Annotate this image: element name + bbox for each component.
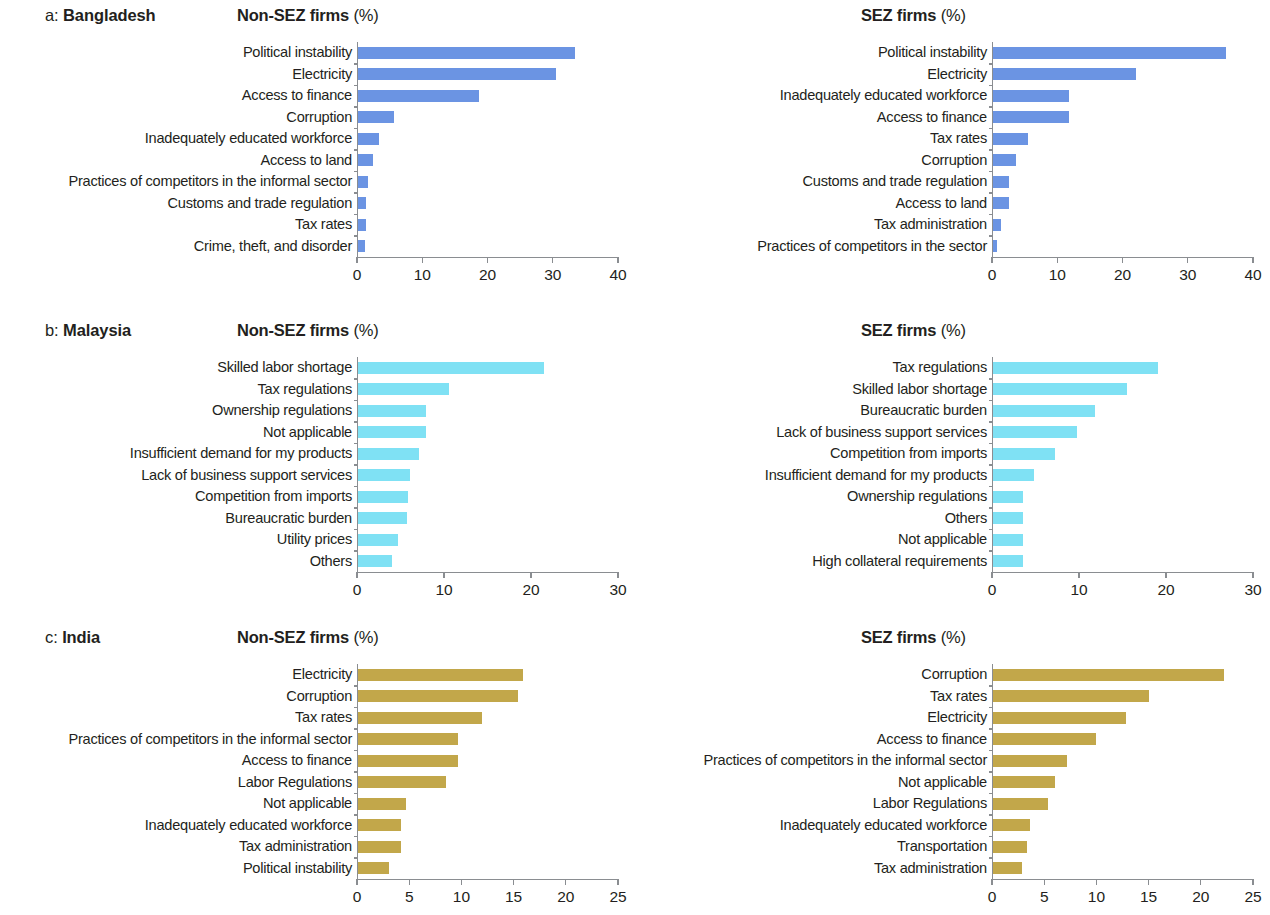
category-label: High collateral requirements [635,551,992,573]
bar [358,512,407,524]
x-axis-tick-label: 30 [1244,581,1261,599]
bar-column [992,664,1254,879]
bar [358,776,446,788]
category-label: Tax rates [0,707,357,729]
bar [993,176,1009,188]
x-axis: 010203040 [992,257,1253,287]
panel-title-text: Non-SEZ firms [237,321,349,339]
category-label: Practices of competitors in the informal… [0,171,357,193]
category-label: Corruption [635,150,992,172]
plot-area: Political instabilityElectricityInadequa… [635,42,1270,257]
category-label: Access to land [635,193,992,215]
x-axis-tick [617,572,618,578]
bar-row [358,664,619,686]
category-label-column: Tax regulationsSkilled labor shortageBur… [635,357,992,572]
x-axis-tick-label: 20 [479,266,496,284]
bar [993,90,1069,102]
bar-row [358,729,619,751]
bar-row [358,107,619,129]
category-label: Inadequately educated workforce [0,815,357,837]
bar [358,819,401,831]
bar-row [993,793,1254,815]
category-label: Crime, theft, and disorder [0,236,357,258]
category-label: Not applicable [0,422,357,444]
bar-row [993,150,1254,172]
x-axis-tick-label: 0 [988,581,997,599]
bar-row [358,686,619,708]
category-label: Customs and trade regulation [635,171,992,193]
x-axis-tick [991,572,992,578]
category-label: Labor Regulations [635,793,992,815]
category-label: Competition from imports [0,486,357,508]
bar-row [993,551,1254,573]
x-axis-tick-label: 0 [353,581,362,599]
x-axis-tick-label: 20 [1157,581,1174,599]
bar [993,133,1028,145]
panel-row-bangladesh: a: Bangladesh Non-SEZ firms (%) Politica… [0,0,1270,305]
bar [358,362,544,374]
bar-row [993,85,1254,107]
category-label: Tax rates [0,214,357,236]
x-axis-tick [1057,257,1058,263]
x-axis-tick-label: 10 [435,581,452,599]
x-axis-tick-label: 0 [988,266,997,284]
bar [358,133,379,145]
bar-row [358,214,619,236]
bar [358,426,426,438]
plot-area: CorruptionTax ratesElectricityAccess to … [635,664,1270,879]
panel-country-name: Bangladesh [63,6,156,24]
panel-title-text: Non-SEZ firms [237,6,349,24]
x-axis-line [992,879,1253,880]
bar-row [993,858,1254,880]
category-label: Ownership regulations [0,400,357,422]
x-axis-tick-label: 0 [353,266,362,284]
x-axis-tick [1252,257,1253,263]
x-axis-tick [617,257,618,263]
category-label: Electricity [635,707,992,729]
panel-letter: c: [45,628,58,646]
bar-row [993,107,1254,129]
bar [993,469,1034,481]
panel-title-unit: (%) [941,6,966,24]
bar-row [358,551,619,573]
panel-row-malaysia: b: Malaysia Non-SEZ firms (%) Skilled la… [0,315,1270,620]
category-label: Political instability [635,42,992,64]
panel-title-unit: (%) [353,321,378,339]
category-label: Not applicable [635,529,992,551]
bar [358,755,458,767]
x-axis-tick-label: 10 [1088,888,1105,906]
category-label: Access to land [0,150,357,172]
x-axis-tick-label: 30 [609,581,626,599]
x-axis-tick-label: 30 [544,266,561,284]
x-axis-tick [565,879,566,885]
panel-title-unit: (%) [941,628,966,646]
plot-area: ElectricityCorruptionTax ratesPractices … [0,664,635,879]
bar-column [992,357,1254,572]
x-axis-tick-label: 25 [1244,888,1261,906]
plot-area: Tax regulationsSkilled labor shortageBur… [635,357,1270,572]
bar-column [992,42,1254,257]
bar-row [993,443,1254,465]
bar [358,154,373,166]
category-label-column: Skilled labor shortageTax regulationsOwn… [0,357,357,572]
panel-country-name: Malaysia [63,321,131,339]
bar [993,690,1149,702]
panel-label-india: c: India [45,628,100,647]
panel-country-name: India [62,628,100,646]
x-axis: 0510152025 [992,879,1253,909]
bar-row [358,193,619,215]
category-label: Political instability [0,858,357,880]
bar-row [358,858,619,880]
x-axis-tick [552,257,553,263]
x-axis-tick-label: 25 [609,888,626,906]
x-axis-tick [1165,572,1166,578]
category-label: Lack of business support services [635,422,992,444]
bar-column [357,357,619,572]
category-label-column: Political instabilityElectricityAccess t… [0,42,357,257]
x-axis-tick-label: 5 [405,888,414,906]
panel-title: Non-SEZ firms (%) [237,6,378,25]
x-axis-tick-label: 0 [988,888,997,906]
panel-row-india: c: India Non-SEZ firms (%) ElectricityCo… [0,622,1270,915]
category-label: Tax administration [635,214,992,236]
category-label: Practices of competitors in the informal… [0,729,357,751]
